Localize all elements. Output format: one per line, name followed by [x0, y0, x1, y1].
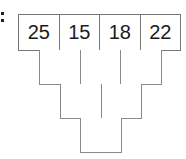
- pyramid-cell-empty[interactable]: [80, 118, 122, 153]
- pyramid-cell-empty[interactable]: [39, 50, 81, 85]
- pyramid-row-2: [39, 50, 162, 85]
- pyramid-cell: 25: [18, 14, 60, 51]
- pyramid-cell-empty[interactable]: [101, 84, 143, 119]
- pyramid-row-3: [60, 84, 142, 119]
- pyramid-cell-empty[interactable]: [80, 50, 122, 85]
- pyramid-cell-empty[interactable]: [120, 50, 162, 85]
- pyramid-cell: 18: [99, 14, 141, 51]
- pyramid-cell: 22: [140, 14, 182, 51]
- pyramid-cell: 15: [59, 14, 101, 51]
- label-colon-mark: [0, 12, 4, 24]
- pyramid-row-4: [80, 118, 122, 153]
- pyramid-cell-empty[interactable]: [60, 84, 102, 119]
- pyramid-row-1: 25 15 18 22: [18, 14, 181, 51]
